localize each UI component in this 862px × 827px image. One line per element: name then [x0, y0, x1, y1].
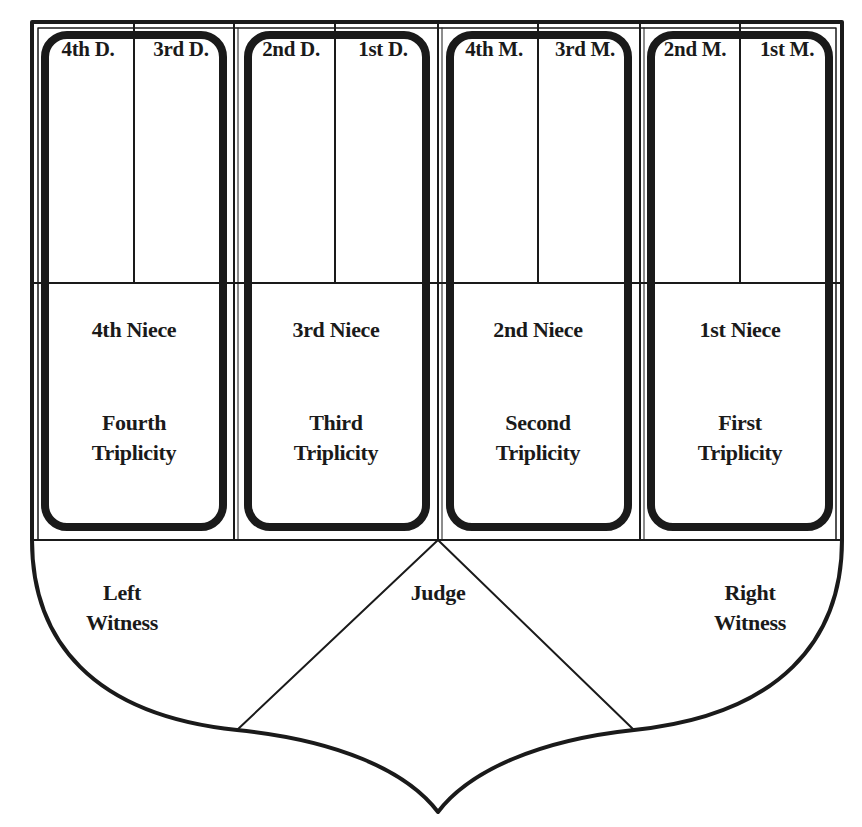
label-first-triplicity: First Triplicity — [650, 408, 830, 468]
label-1st-mother: 1st M. — [742, 37, 832, 61]
triplicity-ordinal: Second — [448, 408, 628, 438]
label-4th-daughter: 4th D. — [46, 37, 130, 61]
label-3rd-mother: 3rd M. — [540, 37, 630, 61]
witness-side: Left — [42, 578, 202, 608]
triplicity-ordinal: Third — [246, 408, 426, 438]
label-second-triplicity: Second Triplicity — [448, 408, 628, 468]
judge-right-edge — [438, 540, 634, 730]
witness-word: Witness — [42, 608, 202, 638]
triplicity-word: Triplicity — [246, 438, 426, 468]
label-3rd-daughter: 3rd D. — [138, 37, 224, 61]
label-fourth-triplicity: Fourth Triplicity — [44, 408, 224, 468]
label-2nd-niece: 2nd Niece — [448, 317, 628, 342]
witness-side: Right — [670, 578, 830, 608]
triplicity-ordinal: Fourth — [44, 408, 224, 438]
judge-left-edge — [237, 540, 438, 730]
triplicity-word: Triplicity — [44, 438, 224, 468]
triplicity-word: Triplicity — [650, 438, 830, 468]
label-1st-daughter: 1st D. — [340, 37, 426, 61]
label-4th-niece: 4th Niece — [44, 317, 224, 342]
label-1st-niece: 1st Niece — [650, 317, 830, 342]
triplicity-ordinal: First — [650, 408, 830, 438]
label-right-witness: Right Witness — [670, 578, 830, 638]
label-2nd-mother: 2nd M. — [650, 37, 740, 61]
label-2nd-daughter: 2nd D. — [248, 37, 334, 61]
witness-word: Witness — [670, 608, 830, 638]
label-left-witness: Left Witness — [42, 578, 202, 638]
label-third-triplicity: Third Triplicity — [246, 408, 426, 468]
triplicity-word: Triplicity — [448, 438, 628, 468]
label-judge: Judge — [358, 578, 518, 608]
label-4th-mother: 4th M. — [450, 37, 538, 61]
label-3rd-niece: 3rd Niece — [246, 317, 426, 342]
